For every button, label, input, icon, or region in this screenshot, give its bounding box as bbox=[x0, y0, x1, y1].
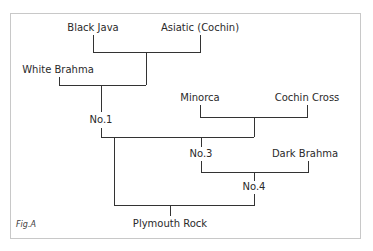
node-dark-brahma: Dark Brahma bbox=[272, 149, 338, 159]
node-no4: No.4 bbox=[243, 182, 266, 192]
node-asiatic-cochin: Asiatic (Cochin) bbox=[161, 23, 239, 33]
node-no1: No.1 bbox=[90, 115, 113, 125]
node-minorca: Minorca bbox=[180, 93, 219, 103]
node-black-java: Black Java bbox=[67, 23, 118, 33]
node-cochin-cross: Cochin Cross bbox=[275, 93, 340, 103]
node-plymouth-rock: Plymouth Rock bbox=[133, 219, 207, 229]
node-no3: No.3 bbox=[190, 149, 213, 159]
figure-caption: Fig.A bbox=[16, 220, 36, 229]
node-white-brahma: White Brahma bbox=[22, 65, 94, 75]
tree-connectors bbox=[0, 0, 373, 251]
